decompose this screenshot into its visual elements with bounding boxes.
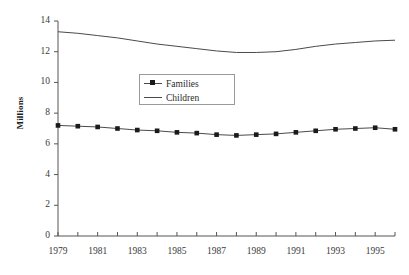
y-tick-label: 8 <box>28 107 50 117</box>
data-point-marker <box>135 128 140 133</box>
data-point-marker <box>95 125 100 130</box>
series-line-children <box>58 32 395 53</box>
y-tick-label: 0 <box>28 230 50 240</box>
series-line-families <box>58 125 395 135</box>
legend-line-icon <box>140 92 166 104</box>
y-tick-label: 10 <box>28 76 50 86</box>
legend-item-children: Children <box>140 91 236 105</box>
chart-legend: Families Children <box>139 74 235 105</box>
data-point-marker <box>294 130 299 135</box>
y-axis-ticks <box>54 21 58 236</box>
data-point-marker <box>155 129 160 134</box>
x-tick-label: 1987 <box>197 246 237 256</box>
data-point-marker <box>234 133 239 138</box>
y-tick-label: 12 <box>28 46 50 56</box>
y-tick-label: 14 <box>28 15 50 25</box>
data-point-marker <box>313 129 318 134</box>
x-tick-label: 1979 <box>38 246 78 256</box>
y-tick-label: 2 <box>28 199 50 209</box>
data-point-marker <box>194 131 199 136</box>
legend-label-families: Families <box>166 78 199 90</box>
data-point-marker <box>274 132 279 137</box>
x-tick-label: 1981 <box>78 246 118 256</box>
x-tick-label: 1991 <box>276 246 316 256</box>
x-tick-label: 1993 <box>316 246 356 256</box>
y-axis-title: Millions <box>15 76 25 150</box>
y-tick-label: 6 <box>28 138 50 148</box>
x-tick-label: 1995 <box>355 246 395 256</box>
data-point-marker <box>254 132 259 137</box>
data-point-marker <box>56 123 61 128</box>
data-point-marker <box>333 127 338 132</box>
x-tick-label: 1985 <box>157 246 197 256</box>
x-tick-label: 1989 <box>236 246 276 256</box>
data-point-marker <box>393 127 398 132</box>
data-point-marker <box>373 125 378 130</box>
data-point-marker <box>175 130 180 135</box>
legend-marker-line-icon <box>140 78 166 90</box>
chart-plot-area <box>0 0 409 275</box>
legend-item-families: Families <box>140 77 236 91</box>
x-tick-label: 1983 <box>117 246 157 256</box>
data-point-marker <box>76 124 81 129</box>
data-point-marker <box>214 132 219 137</box>
legend-label-children: Children <box>166 92 199 104</box>
data-point-marker <box>353 126 358 131</box>
chart-container: Millions 02468101214 1979198119831985198… <box>0 0 409 275</box>
x-axis-ticks <box>58 232 395 236</box>
data-point-marker <box>115 126 120 131</box>
y-tick-label: 4 <box>28 169 50 179</box>
